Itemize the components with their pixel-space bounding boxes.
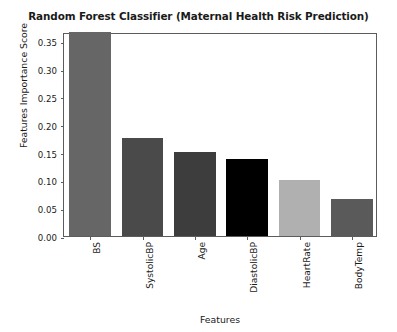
x-axis-tick-label: SystolicBP xyxy=(145,242,155,332)
y-axis-tick: 0.35 xyxy=(1,37,64,49)
y-axis-tick-label: 0.35 xyxy=(38,37,57,49)
plot-frame: 0.000.050.100.150.200.250.300.35 xyxy=(63,33,377,237)
y-axis-tick: 0.00 xyxy=(1,232,64,244)
y-axis-tick: 0.15 xyxy=(1,149,64,161)
y-axis-tick-mark xyxy=(61,43,65,44)
y-axis-tick: 0.25 xyxy=(1,93,64,105)
chart-title: Random Forest Classifier (Maternal Healt… xyxy=(0,10,397,22)
y-axis-tick-mark xyxy=(61,238,65,239)
x-axis-tick-mark xyxy=(352,236,353,240)
x-axis-tick-label: Age xyxy=(197,242,207,332)
y-axis-tick: 0.05 xyxy=(1,204,64,216)
y-axis-tick-label: 0.15 xyxy=(38,149,57,161)
x-axis-tick-mark xyxy=(247,236,248,240)
bar-age xyxy=(174,152,216,236)
y-axis-tick-mark xyxy=(61,182,65,183)
y-axis-tick-label: 0.25 xyxy=(38,93,57,105)
x-axis-tick-label: DiastolicBP xyxy=(249,242,259,332)
y-axis-tick-mark xyxy=(61,98,65,99)
y-axis-tick-label: 0.00 xyxy=(38,232,57,244)
x-axis-tick-mark xyxy=(90,236,91,240)
plot-area: 0.000.050.100.150.200.250.300.35 xyxy=(64,34,376,236)
y-axis-tick-mark xyxy=(61,71,65,72)
y-axis-tick-label: 0.30 xyxy=(38,65,57,77)
x-axis-label: Features xyxy=(63,314,377,325)
y-axis-tick: 0.10 xyxy=(1,176,64,188)
y-axis-tick-mark xyxy=(61,210,65,211)
x-axis-tick-mark xyxy=(300,236,301,240)
bar-systolicbp xyxy=(122,138,164,236)
bar-bs xyxy=(69,32,111,236)
y-axis-label: Features Importance Score xyxy=(18,6,29,166)
y-axis-tick-mark xyxy=(61,126,65,127)
bar-heartrate xyxy=(279,180,321,236)
x-axis-tick-label: BS xyxy=(92,242,102,332)
bar-diastolicbp xyxy=(226,159,268,236)
x-axis-tick-label: BodyTemp xyxy=(354,242,364,332)
y-axis-tick: 0.20 xyxy=(1,121,64,133)
chart-figure: Random Forest Classifier (Maternal Healt… xyxy=(0,0,397,332)
y-axis-tick-label: 0.10 xyxy=(38,176,57,188)
x-axis-tick-mark xyxy=(195,236,196,240)
y-axis-tick: 0.30 xyxy=(1,65,64,77)
y-axis-tick-mark xyxy=(61,154,65,155)
bar-bodytemp xyxy=(331,199,373,236)
y-axis-tick-label: 0.20 xyxy=(38,121,57,133)
y-axis-tick-label: 0.05 xyxy=(38,204,57,216)
x-axis-tick-label: HeartRate xyxy=(302,242,312,332)
x-axis-tick-mark xyxy=(143,236,144,240)
